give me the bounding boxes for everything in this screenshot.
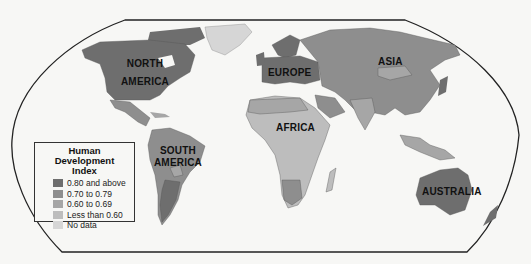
- legend-item: 0.60 to 0.69: [39, 199, 130, 210]
- region-india: [350, 98, 375, 130]
- label-north-america-line1: NORTH: [110, 58, 180, 70]
- legend-label: 0.70 to 0.79: [67, 189, 112, 199]
- legend-swatch: [53, 179, 63, 187]
- label-north-america-line2: AMERICA: [110, 76, 180, 88]
- region-uk: [256, 52, 265, 66]
- region-greenland: [205, 24, 252, 55]
- region-se-asia: [400, 135, 455, 160]
- legend-swatch: [53, 211, 63, 219]
- label-south-america-line2: AMERICA: [143, 157, 213, 169]
- legend-label: 0.80 and above: [67, 178, 126, 188]
- legend-label: Less than 0.60: [67, 210, 123, 220]
- region-caribbean: [150, 112, 170, 118]
- label-asia: ASIA: [378, 56, 403, 68]
- legend-item: 0.70 to 0.79: [39, 189, 130, 200]
- legend-label: 0.60 to 0.69: [67, 199, 112, 209]
- label-north-america: NORTH AMERICA: [110, 58, 180, 88]
- region-madagascar: [326, 168, 336, 192]
- legend-item: 0.80 and above: [39, 178, 130, 189]
- legend-label: No data: [67, 220, 97, 230]
- region-scandinavia: [272, 35, 300, 58]
- region-central-america: [110, 100, 150, 126]
- legend-swatch: [53, 221, 63, 229]
- legend-swatch: [53, 190, 63, 198]
- legend-swatch: [53, 200, 63, 208]
- label-australia: AUSTRALIA: [422, 186, 482, 198]
- label-africa: AFRICA: [276, 122, 315, 134]
- label-europe: EUROPE: [268, 67, 311, 79]
- legend-title-line2: Index: [39, 166, 130, 176]
- region-japan: [438, 76, 448, 96]
- legend-item: No data: [39, 220, 130, 231]
- legend-item: Less than 0.60: [39, 210, 130, 221]
- legend-title-line1: Human Development: [39, 146, 130, 166]
- label-south-america-line1: SOUTH: [143, 145, 213, 157]
- label-south-america: SOUTH AMERICA: [143, 145, 213, 169]
- legend: Human Development Index 0.80 and above 0…: [34, 142, 135, 222]
